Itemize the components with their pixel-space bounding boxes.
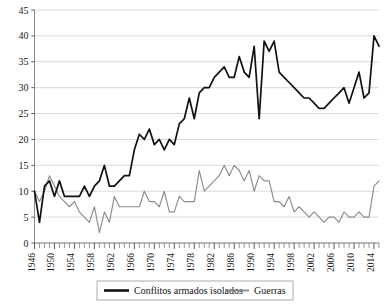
x-tick-label: 2002: [306, 253, 316, 272]
chart-container: 051015202530354045 194619501954195819621…: [0, 0, 387, 305]
y-tick-label: 25: [19, 108, 29, 119]
y-tick-label: 40: [19, 30, 29, 41]
x-tick-label: 1966: [126, 253, 136, 272]
y-tick-label: 5: [24, 212, 29, 223]
y-tick-label: 0: [24, 238, 29, 249]
x-tick-label: 2010: [346, 253, 356, 272]
x-tick-label: 1962: [106, 253, 116, 272]
chart-legend: Conflitos armados isoladosGuerras: [97, 281, 293, 300]
x-tick-label: 1974: [166, 253, 176, 272]
gridlines: [35, 10, 380, 243]
x-tick-label: 1986: [226, 253, 236, 272]
y-tick-label: 10: [19, 186, 29, 197]
series-conflitos-armados-isolados-line: [35, 36, 380, 222]
legend-label-guerras: Guerras: [254, 285, 286, 296]
x-tick-label: 2006: [326, 253, 336, 272]
x-tick-label: 1950: [46, 253, 56, 272]
y-tick-label: 20: [19, 134, 29, 145]
guerras-series-path: [35, 165, 380, 232]
y-tick-label: 30: [19, 82, 29, 93]
x-tick-labels: 1946195019541958196219661970197419781982…: [27, 253, 377, 272]
y-tick-labels: 051015202530354045: [19, 5, 29, 249]
line-chart: 051015202530354045 194619501954195819621…: [0, 0, 387, 305]
x-tick-label: 1970: [146, 253, 156, 272]
x-tick-label: 1990: [246, 253, 256, 272]
x-tick-label: 1978: [186, 253, 196, 272]
series-guerras-line: [35, 165, 380, 232]
x-tick-label: 1954: [66, 253, 76, 272]
x-axis: [35, 243, 380, 249]
conflitos-series-path: [35, 36, 380, 222]
y-tick-label: 35: [19, 56, 29, 67]
y-tick-label: 15: [19, 160, 29, 171]
y-tick-label: 45: [19, 5, 29, 16]
x-tick-label: 1946: [27, 253, 37, 272]
x-tick-label: 1958: [86, 253, 96, 272]
x-tick-label: 1994: [266, 253, 276, 272]
x-tick-label: 1998: [286, 253, 296, 272]
y-axis: [31, 10, 34, 243]
x-tick-label: 1982: [206, 253, 216, 272]
x-tick-label: 2014: [366, 253, 376, 272]
